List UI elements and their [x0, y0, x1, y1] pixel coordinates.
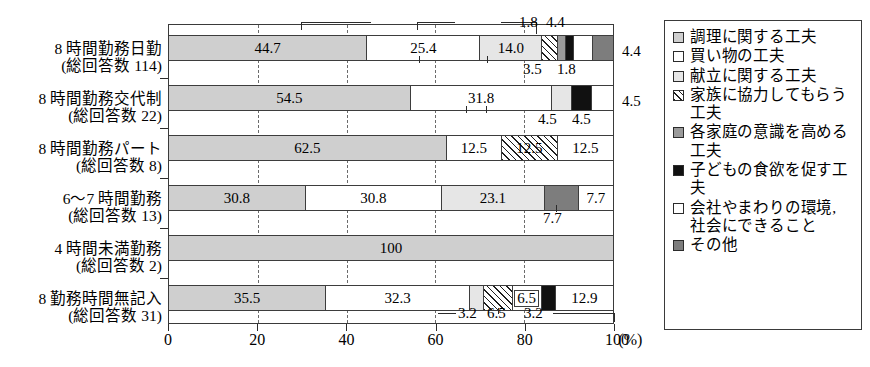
legend-swatch-white-2-icon	[673, 203, 684, 214]
bar-0-segment-1[interactable]: 25.4	[367, 36, 480, 60]
bar-2-value-2: 12.5	[516, 141, 542, 156]
bar-5-segment-1[interactable]: 32.3	[326, 286, 469, 310]
legend-swatch-medium-gray-icon	[673, 127, 684, 138]
bar-0-callout-above-right: 4.4	[546, 15, 565, 30]
bar-1-value-1: 31.8	[468, 91, 494, 106]
bar-3-segment-0[interactable]: 30.8	[169, 186, 306, 210]
legend-item-0[interactable]: 調理に関する工夫	[672, 28, 855, 46]
legend-label-6: 会社やまわりの環境, 社会にできること	[690, 199, 855, 236]
legend-item-5[interactable]: 子どもの食欲を促す工夫	[672, 161, 855, 198]
legend-swatch-light-gray-icon	[673, 71, 684, 82]
bar-5-callout-below-1: 3.2	[458, 306, 477, 321]
legend-swatch-hatched-icon	[673, 90, 684, 101]
bar-0-callout-above-left: 1.8	[519, 15, 538, 30]
bar-0-segment-5[interactable]	[566, 36, 574, 60]
legend-swatch-dark-gray-icon	[673, 240, 684, 251]
bar-5-callout-below-2: 6.5	[487, 306, 506, 321]
bar-2-segment-1[interactable]: 12.5	[447, 136, 503, 160]
x-axis-label-20: 20	[249, 332, 265, 348]
category-label-2-line1: 8 時間勤務パート	[38, 140, 162, 157]
bar-5-value-4: 6.5	[514, 290, 539, 307]
bar-1-segment-0[interactable]: 54.5	[169, 86, 411, 110]
category-label-4-line2: (総回答数 2)	[54, 257, 162, 274]
bar-1-callout-below-left: 4.5	[538, 112, 557, 127]
bar-0-value-0: 44.7	[255, 41, 281, 56]
stacked-bar-2[interactable]: 62.5 12.5 12.5 12.5	[169, 135, 613, 161]
bar-row-0: 44.7 25.4 14.0	[169, 35, 613, 61]
gridline-60	[435, 25, 436, 323]
bar-row-4: 100	[169, 235, 613, 261]
x-axis-tick-0	[168, 324, 169, 331]
category-label-4-line1: 4 時間未満勤務	[54, 240, 162, 257]
legend-label-1: 買い物の工夫	[690, 47, 855, 65]
category-label-3-line2: (総回答数 13)	[63, 207, 162, 224]
x-axis-unit-label: (%)	[618, 332, 642, 348]
category-label-0-line1: 8 時間勤務日勤	[54, 40, 162, 57]
bar-1-segment-2[interactable]	[552, 86, 572, 110]
category-label-0: 8 時間勤務日勤 (総回答数 114)	[54, 40, 162, 75]
gridline-20	[258, 25, 259, 323]
bar-5-segment-0[interactable]: 35.5	[169, 286, 326, 310]
x-axis-label-80: 80	[517, 332, 533, 348]
legend-swatch-gray-icon	[673, 32, 684, 43]
bar-5-segment-4[interactable]: 6.5	[513, 286, 542, 310]
legend-label-7: その他	[690, 236, 855, 254]
bar-2-segment-0[interactable]: 62.5	[169, 136, 447, 160]
category-label-2-line2: (総回答数 8)	[38, 157, 162, 174]
bar-2-segment-3[interactable]: 12.5	[558, 136, 614, 160]
category-label-3: 6〜7 時間勤務 (総回答数 13)	[63, 190, 162, 225]
bar-row-2: 62.5 12.5 12.5 12.5	[169, 135, 613, 161]
bar-5-segment-6[interactable]: 12.9	[556, 286, 613, 310]
bar-1-callout-right: 4.5	[622, 94, 641, 109]
bar-5-segment-5[interactable]	[542, 286, 556, 310]
bar-3-segment-3[interactable]	[545, 186, 579, 210]
stacked-bar-0[interactable]: 44.7 25.4 14.0	[169, 35, 613, 61]
bar-0-segment-3[interactable]	[542, 36, 558, 60]
bar-2-value-1: 12.5	[461, 141, 487, 156]
legend: 調理に関する工夫 買い物の工夫 献立に関する工夫 家族に協力してもらう工夫 各家…	[664, 20, 862, 330]
bar-3-value-4: 7.7	[587, 191, 606, 206]
legend-item-4[interactable]: 各家庭の意識を高める工夫	[672, 123, 855, 160]
bar-0-segment-0[interactable]: 44.7	[169, 36, 367, 60]
stacked-bar-3[interactable]: 30.8 30.8 23.1 7.7	[169, 185, 613, 211]
bar-0-callout-below-left: 3.5	[523, 62, 542, 77]
bar-4-segment-0[interactable]: 100	[169, 236, 613, 260]
bar-5-callout-below-3: 3.2	[524, 306, 543, 321]
bar-1-segment-4[interactable]	[592, 86, 612, 110]
bar-0-value-2: 14.0	[498, 41, 524, 56]
bar-0-callout-right: 4.4	[622, 44, 641, 59]
category-label-0-line2: (総回答数 114)	[54, 57, 162, 74]
legend-item-1[interactable]: 買い物の工夫	[672, 47, 855, 65]
bar-row-5: 35.5 32.3 6.5 12.9	[169, 285, 613, 311]
bar-0-segment-4[interactable]	[558, 36, 566, 60]
bar-2-segment-2[interactable]: 12.5	[502, 136, 558, 160]
legend-label-2: 献立に関する工夫	[690, 67, 855, 85]
legend-label-5: 子どもの食欲を促す工夫	[690, 161, 855, 198]
legend-item-7[interactable]: その他	[672, 236, 855, 254]
category-label-1-line1: 8 時間勤務交代制	[38, 90, 162, 107]
bar-1-segment-1[interactable]: 31.8	[411, 86, 552, 110]
x-axis-tick-100	[614, 324, 615, 331]
legend-item-3[interactable]: 家族に協力してもらう工夫	[672, 86, 855, 123]
legend-swatch-black-icon	[673, 165, 684, 176]
bar-3-segment-2[interactable]: 23.1	[442, 186, 544, 210]
bar-0-segment-7[interactable]	[593, 36, 613, 60]
legend-item-6[interactable]: 会社やまわりの環境, 社会にできること	[672, 199, 855, 236]
stacked-bar-4[interactable]: 100	[169, 235, 613, 261]
legend-label-4: 各家庭の意識を高める工夫	[690, 123, 855, 160]
bar-2-value-3: 12.5	[572, 141, 598, 156]
bar-3-value-2: 23.1	[480, 191, 506, 206]
category-label-5-line1: 8 勤務時間無記入	[38, 290, 162, 307]
bar-0-segment-2[interactable]: 14.0	[480, 36, 542, 60]
legend-item-2[interactable]: 献立に関する工夫	[672, 67, 855, 85]
bar-3-segment-1[interactable]: 30.8	[306, 186, 443, 210]
bar-1-segment-3[interactable]	[572, 86, 592, 110]
category-label-4: 4 時間未満勤務 (総回答数 2)	[54, 240, 162, 275]
category-label-1: 8 時間勤務交代制 (総回答数 22)	[38, 90, 162, 125]
stacked-bar-5[interactable]: 35.5 32.3 6.5 12.9	[169, 285, 613, 311]
category-label-2: 8 時間勤務パート (総回答数 8)	[38, 140, 162, 175]
bar-3-segment-4[interactable]: 7.7	[579, 186, 613, 210]
stacked-bar-1[interactable]: 54.5 31.8	[169, 85, 613, 111]
bar-0-segment-6[interactable]	[574, 36, 594, 60]
bar-row-3: 30.8 30.8 23.1 7.7	[169, 185, 613, 211]
